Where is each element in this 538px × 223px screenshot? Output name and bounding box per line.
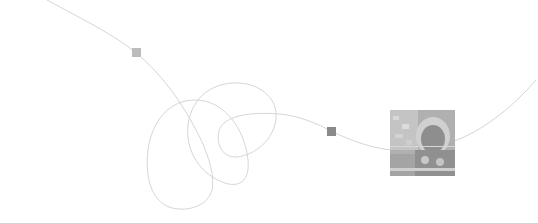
marker-dark [327,127,336,136]
line-tail [454,80,536,141]
photo-thumbnail [390,110,455,176]
scribble-line-canvas [0,0,538,223]
marker-light [132,48,141,57]
photo-image [390,110,455,176]
looping-line [47,0,392,209]
